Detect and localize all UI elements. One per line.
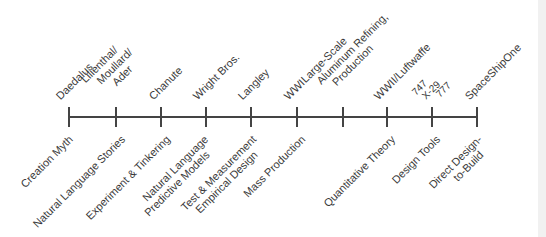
timeline-tick	[431, 107, 433, 127]
milestone-langley: Langley	[236, 66, 272, 102]
timeline-tick	[342, 107, 344, 127]
timeline-tick	[296, 107, 298, 127]
timeline-tick	[160, 107, 162, 127]
timeline-tick	[476, 107, 478, 127]
timeline-tick	[250, 107, 252, 127]
era-natural-language-stories: Natural Language Stories	[31, 133, 128, 230]
timeline-tick	[115, 107, 117, 127]
timeline-tick	[205, 107, 207, 127]
timeline-tick	[386, 107, 388, 127]
timeline-axis	[69, 116, 478, 118]
era-creation-myth: Creation Myth	[18, 133, 75, 190]
timeline-tick	[68, 107, 70, 127]
milestone-wright-bros: Wright Bros.	[191, 51, 242, 102]
right-edge-band	[538, 0, 546, 237]
milestone-lilienthal-moullard-ader: Lilienthal/ Moullard/ Ader	[79, 37, 144, 102]
era-quantitative-theory: Quantitative Theory	[321, 133, 397, 209]
milestone-chanute: Chanute	[147, 64, 185, 102]
milestone-spaceshipone: SpaceShipOne	[463, 41, 524, 102]
